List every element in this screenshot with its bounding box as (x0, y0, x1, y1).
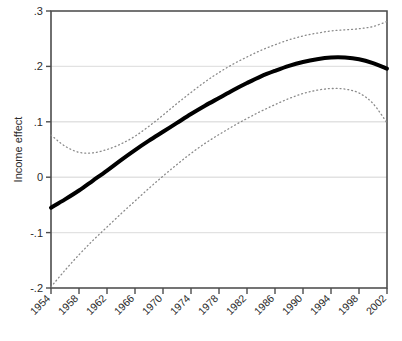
y-tick-label: .3 (34, 5, 43, 17)
income-effect-line-chart: .3.2.10-.1-.2 19541958196219661970197419… (0, 0, 402, 341)
y-tick-label: -.2 (30, 282, 43, 294)
y-axis-label: Income effect (12, 117, 24, 183)
chart-background (0, 0, 402, 341)
y-tick-label: .2 (34, 60, 43, 72)
y-tick-label: .1 (34, 116, 43, 128)
y-tick-label: -.1 (30, 227, 43, 239)
y-axis-label-group: Income effect (12, 117, 24, 183)
chart-container: .3.2.10-.1-.2 19541958196219661970197419… (0, 0, 402, 341)
y-tick-label: 0 (37, 171, 43, 183)
